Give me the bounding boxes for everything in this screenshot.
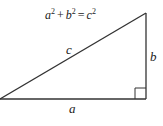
horizontal-leg-label: a [69,101,76,116]
hypotenuse-label: c [66,42,72,57]
right-angle-marker-icon [135,88,146,99]
pythagorean-formula: a2+b2=c2 [45,7,96,22]
vertical-leg-label: b [150,49,157,64]
hypotenuse-c [0,13,146,99]
pythagorean-triangle-diagram: a2+b2=c2 c b a [0,0,163,126]
